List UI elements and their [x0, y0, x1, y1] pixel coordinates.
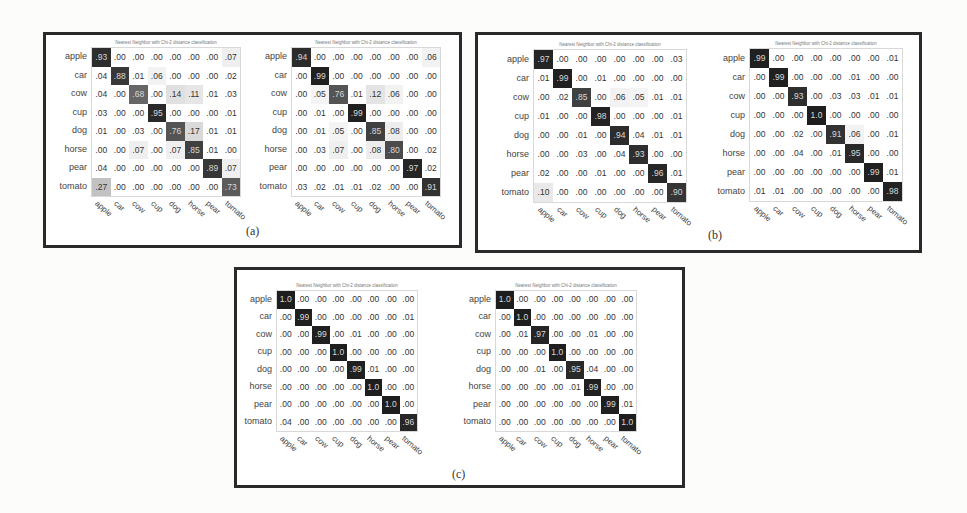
matrix-cell: .00 — [864, 144, 883, 163]
matrix-cell: .00 — [329, 159, 348, 178]
matrix-cell: .98 — [591, 107, 610, 126]
matrix-cell: .00 — [572, 164, 591, 183]
matrix-cell: .00 — [629, 50, 648, 69]
matrix-cell: .10 — [534, 183, 553, 202]
matrix-cell: .00 — [203, 104, 222, 123]
matrix-cell: .00 — [549, 309, 567, 327]
row-label: pear — [242, 162, 287, 172]
matrix-cell: .00 — [864, 125, 883, 144]
row-label: cup — [242, 107, 287, 117]
matrix-cell: .00 — [348, 122, 367, 141]
matrix-cell: .00 — [312, 361, 330, 379]
matrix-cell: .00 — [92, 141, 111, 160]
row-label: car — [700, 72, 745, 82]
matrix-cell: .00 — [330, 361, 348, 379]
matrix-cell: .00 — [311, 159, 330, 178]
matrix-cell: .00 — [610, 69, 629, 88]
matrix-cell: .00 — [365, 344, 383, 362]
matrix-cell: .00 — [549, 326, 567, 344]
matrix-cell: .00 — [385, 178, 404, 197]
matrix-cell: .00 — [864, 182, 883, 201]
matrix-cell: .99 — [769, 68, 788, 87]
matrix-cell: .03 — [222, 85, 241, 104]
matrix-cell: .11 — [185, 85, 204, 104]
matrix-cell: .00 — [514, 291, 532, 309]
matrix-cell: .12 — [366, 85, 385, 104]
matrix-cell: .01 — [750, 182, 769, 201]
matrix-cell: .00 — [531, 291, 549, 309]
matrix-cell: .94 — [610, 126, 629, 145]
matrix-cell: .08 — [366, 141, 385, 160]
matrix-cell: .00 — [348, 48, 367, 67]
matrix-cell: .68 — [129, 85, 148, 104]
row-label: apple — [227, 294, 272, 304]
matrix-title: Nearest Neighbor with Chi-2 distance cla… — [750, 41, 902, 46]
matrix-cell: .00 — [111, 48, 130, 67]
matrix-cell: .00 — [312, 291, 330, 309]
matrix-cell: .00 — [185, 48, 204, 67]
matrix-cell: .00 — [750, 163, 769, 182]
matrix-cell: .00 — [566, 309, 584, 327]
matrix-cell: .00 — [788, 106, 807, 125]
matrix-cell: .00 — [601, 309, 619, 327]
matrix-cell: .00 — [312, 414, 330, 432]
row-label: apple — [700, 53, 745, 63]
matrix-cell: .00 — [111, 178, 130, 197]
matrix-cell: .00 — [347, 396, 365, 414]
matrix-cell: .98 — [883, 182, 902, 201]
row-label: apple — [42, 51, 87, 61]
matrix-cell: .01 — [203, 85, 222, 104]
matrix-cell: .00 — [385, 159, 404, 178]
matrix-cell: .00 — [496, 379, 514, 397]
matrix-cell: .00 — [382, 361, 400, 379]
row-label: horse — [227, 381, 272, 391]
matrix-cell: .00 — [619, 361, 637, 379]
matrix-cell: .01 — [514, 326, 532, 344]
matrix-title: Nearest Neighbor with Chi-2 distance cla… — [496, 283, 636, 288]
matrix-cell: .07 — [222, 48, 241, 67]
matrix-cell: .00 — [769, 163, 788, 182]
matrix-cell: .99 — [750, 49, 769, 68]
matrix-title: Nearest Neighbor with Chi-2 distance cla… — [277, 283, 417, 288]
matrix-cell: .00 — [619, 291, 637, 309]
matrix-cell: .00 — [292, 141, 311, 160]
matrix-cell: .00 — [203, 178, 222, 197]
matrix-cell: .00 — [566, 344, 584, 362]
matrix-cell: .01 — [531, 361, 549, 379]
matrix-cell: .00 — [382, 344, 400, 362]
matrix-cell: .00 — [295, 414, 313, 432]
matrix-cell: .00 — [566, 396, 584, 414]
matrix-cell: .00 — [111, 104, 130, 123]
matrix-cell: .99 — [311, 67, 330, 86]
matrix-cell: .00 — [185, 67, 204, 86]
row-label: cup — [446, 346, 491, 356]
matrix-cell: .00 — [826, 163, 845, 182]
matrix-cell: .93 — [92, 48, 111, 67]
matrix-cell: .90 — [667, 183, 686, 202]
matrix-cell: .99 — [601, 396, 619, 414]
matrix-cell: .00 — [166, 67, 185, 86]
matrix-cell: .02 — [553, 88, 572, 107]
matrix-cell: .00 — [864, 49, 883, 68]
matrix-cell: .01 — [667, 107, 686, 126]
matrix-cell: .06 — [385, 85, 404, 104]
matrix-cell: .00 — [807, 125, 826, 144]
matrix-cell: .01 — [400, 309, 418, 327]
matrix-cell: .02 — [422, 159, 441, 178]
matrix-cell: .00 — [382, 309, 400, 327]
matrix-cell: .03 — [826, 87, 845, 106]
matrix-cell: .00 — [330, 291, 348, 309]
matrix-cell: .00 — [610, 183, 629, 202]
matrix-cell: .00 — [312, 379, 330, 397]
matrix-cell: .00 — [277, 326, 295, 344]
matrix-cell: .00 — [203, 48, 222, 67]
matrix-cell: .00 — [330, 309, 348, 327]
matrix-cell: .07 — [222, 159, 241, 178]
matrix-cell: .00 — [312, 309, 330, 327]
matrix-cell: .00 — [129, 104, 148, 123]
matrix-cell: .00 — [601, 326, 619, 344]
matrix-cell: .00 — [222, 141, 241, 160]
matrix-cell: .00 — [807, 144, 826, 163]
matrix-cell: .00 — [348, 141, 367, 160]
matrix-cell: .00 — [277, 361, 295, 379]
